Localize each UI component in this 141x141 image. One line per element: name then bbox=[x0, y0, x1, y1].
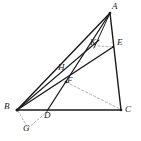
point-label-a: A bbox=[112, 2, 118, 11]
segment-ad bbox=[47, 13, 110, 111]
segment-be bbox=[17, 47, 113, 110]
segment-ac bbox=[110, 13, 121, 110]
point-label-f: F bbox=[67, 76, 73, 85]
vertex-dot-e bbox=[112, 46, 114, 48]
point-label-e: E bbox=[117, 38, 123, 47]
point-label-c: C bbox=[125, 105, 131, 114]
geometry-canvas bbox=[0, 0, 141, 141]
segment-fc-dashed bbox=[66, 82, 120, 109]
segment-ak bbox=[94, 13, 110, 48]
point-label-h: H bbox=[58, 63, 65, 72]
point-label-g: G bbox=[23, 124, 30, 133]
point-label-b: B bbox=[4, 102, 10, 111]
vertex-dot-b bbox=[16, 109, 19, 112]
vertex-dot-a bbox=[109, 12, 112, 15]
point-label-d: D bbox=[44, 111, 51, 120]
geometry-figure: A B C E K H F D G bbox=[0, 0, 141, 141]
vertex-dot-c bbox=[120, 109, 123, 112]
segment-bk bbox=[17, 40, 99, 110]
point-label-k: K bbox=[90, 38, 96, 47]
segment-ke-dashed bbox=[98, 46, 112, 47]
